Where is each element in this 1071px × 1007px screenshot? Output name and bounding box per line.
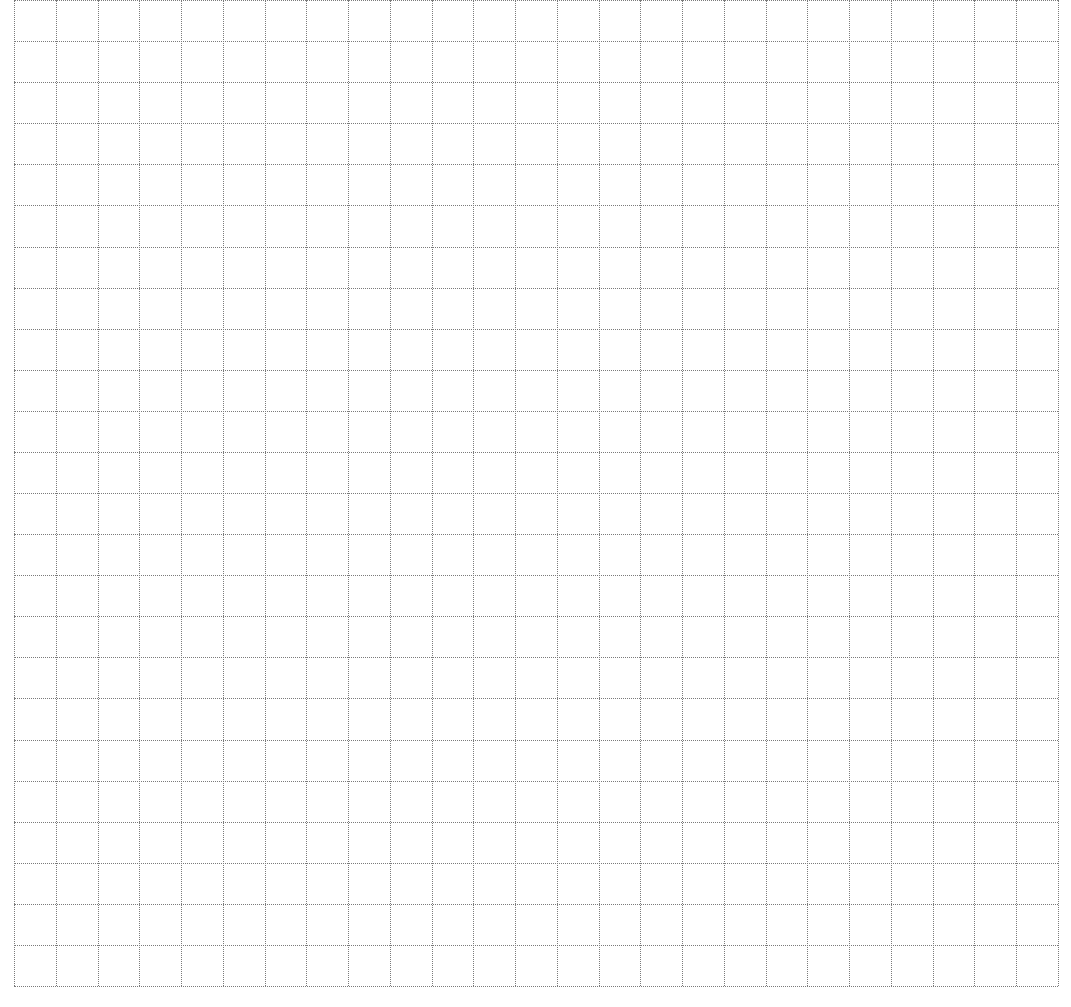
grid-horizontal-line [14,0,1058,1]
grid-horizontal-line [14,698,1058,699]
grid-horizontal-line [14,740,1058,741]
grid-horizontal-line [14,904,1058,905]
grid-paper [14,0,1058,986]
grid-horizontal-line [14,329,1058,330]
grid-horizontal-line [14,205,1058,206]
grid-horizontal-line [14,411,1058,412]
grid-horizontal-line [14,452,1058,453]
grid-horizontal-line [14,370,1058,371]
grid-horizontal-line [14,288,1058,289]
grid-horizontal-line [14,534,1058,535]
grid-horizontal-line [14,616,1058,617]
grid-vertical-line [1058,0,1059,986]
grid-horizontal-line [14,164,1058,165]
grid-horizontal-line [14,986,1058,987]
grid-horizontal-line [14,822,1058,823]
grid-horizontal-line [14,575,1058,576]
grid-horizontal-line [14,493,1058,494]
grid-horizontal-line [14,863,1058,864]
grid-horizontal-line [14,945,1058,946]
grid-horizontal-line [14,123,1058,124]
grid-horizontal-line [14,781,1058,782]
grid-horizontal-line [14,247,1058,248]
grid-horizontal-line [14,82,1058,83]
grid-horizontal-line [14,41,1058,42]
grid-horizontal-line [14,657,1058,658]
